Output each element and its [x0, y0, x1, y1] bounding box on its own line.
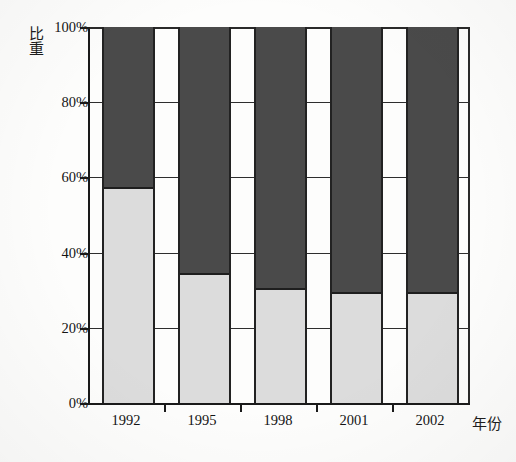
y-axis-tick-mark	[80, 27, 88, 29]
y-axis-tick-mark	[80, 177, 88, 179]
bar-segment-lower	[408, 294, 457, 403]
y-axis-tick-label: 0%	[26, 395, 88, 412]
bar-column	[178, 27, 231, 403]
plot-frame-right	[468, 27, 470, 403]
y-axis-tick-label: 20%	[26, 319, 88, 336]
x-axis-tick-mark	[164, 403, 166, 412]
x-axis-tick-mark	[240, 403, 242, 412]
y-axis-tick-label: 100%	[26, 19, 88, 36]
plot-area	[88, 27, 470, 405]
x-axis-tick-mark	[316, 403, 318, 412]
bar-segment-upper	[408, 27, 457, 294]
bar-segment-lower	[332, 294, 381, 403]
bar-segment-lower	[180, 275, 229, 403]
y-axis-tick-mark	[80, 403, 88, 405]
x-axis-title: 年份	[472, 412, 502, 433]
bar-column	[254, 27, 307, 403]
bar-segment-upper	[332, 27, 381, 294]
bar-column	[330, 27, 383, 403]
bar-segment-upper	[180, 27, 229, 275]
bar-segment-lower	[256, 290, 305, 403]
y-axis-tick-label: 80%	[26, 94, 88, 111]
bar-column	[102, 27, 155, 403]
chart-page: 比重 0%20%40%60%80%100% 199219951998200120…	[0, 0, 516, 462]
y-axis-tick-mark	[80, 253, 88, 255]
y-axis-tick-mark	[80, 328, 88, 330]
bar-segment-upper	[104, 27, 153, 189]
bar-column	[406, 27, 459, 403]
x-axis-tick-label: 2002	[385, 412, 475, 429]
y-axis-tick-label: 60%	[26, 169, 88, 186]
y-axis-tick-label: 40%	[26, 244, 88, 261]
x-axis-tick-mark	[392, 403, 394, 412]
bar-segment-upper	[256, 27, 305, 290]
y-axis-tick-group: 0%20%40%60%80%100%	[0, 0, 88, 462]
bar-segment-lower	[104, 189, 153, 403]
y-axis-tick-mark	[80, 102, 88, 104]
